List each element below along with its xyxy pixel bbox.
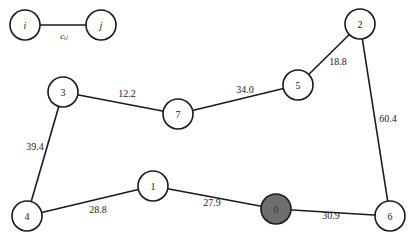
edge-3-7-cost: 12.2 — [118, 88, 136, 99]
node-6-label: 6 — [388, 211, 393, 222]
legend-node-i-label: i — [24, 20, 27, 31]
legend-node-j-label: j — [100, 20, 103, 31]
node-2-label: 2 — [358, 19, 363, 30]
node-0-label: 0 — [274, 204, 279, 215]
edge-1-4-cost: 28.8 — [89, 204, 107, 215]
node-7-label: 7 — [176, 109, 181, 120]
edge-2-6-cost: 60.4 — [379, 113, 397, 124]
node-4-label: 4 — [25, 211, 30, 222]
node-3-label: 3 — [61, 87, 66, 98]
edge-4-3-cost: 39.4 — [26, 141, 44, 152]
edge-7-5-cost: 34.0 — [236, 84, 254, 95]
node-1-label: 1 — [151, 181, 156, 192]
node-5-label: 5 — [296, 80, 301, 91]
edge-0-1-cost: 27.9 — [203, 197, 221, 208]
legend-edge-label: cᵢⱼ — [60, 31, 67, 41]
edge-5-2-cost: 18.8 — [329, 56, 347, 67]
edge-4-3 — [27, 92, 63, 216]
edge-6-0-cost: 30.9 — [322, 210, 340, 221]
